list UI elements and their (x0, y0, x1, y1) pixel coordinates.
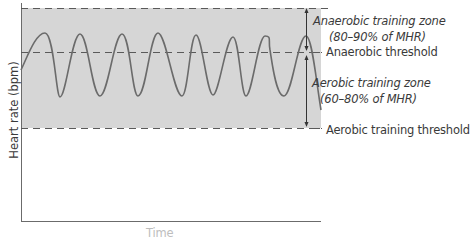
aerobic-zone-label: Aerobic training zone (312, 78, 431, 90)
anaerobic-zone-label: Anaerobic training zone (313, 16, 446, 28)
aerobic-zone-range: (60–80% of MHR) (320, 94, 417, 106)
x-axis-label: Time (146, 228, 173, 240)
aerobic-threshold-label: Aerobic training threshold (326, 125, 470, 137)
anaerobic-zone-range: (80–90% of MHR) (329, 32, 426, 44)
y-axis-label: Heart rate (bpm) (7, 58, 21, 162)
anaerobic-threshold-label: Anaerobic threshold (326, 47, 438, 59)
